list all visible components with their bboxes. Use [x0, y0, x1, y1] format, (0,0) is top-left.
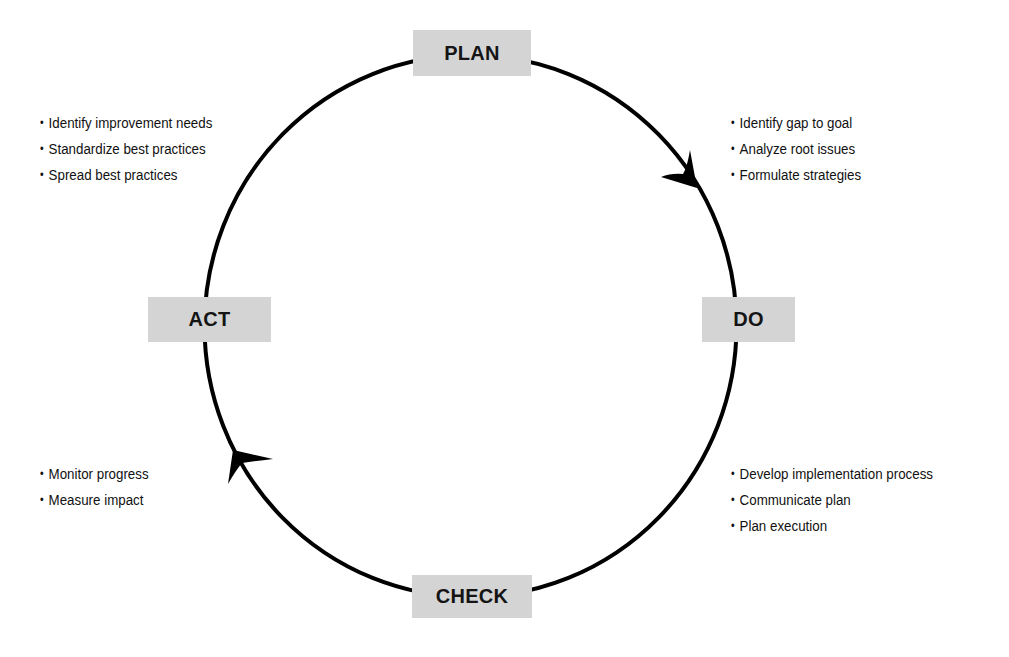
note-item: Plan execution: [731, 513, 933, 539]
act-notes: Identify improvement needs Standardize b…: [40, 110, 212, 188]
stage-do-label: DO: [733, 308, 764, 331]
stage-plan: PLAN: [413, 30, 531, 76]
note-item: Measure impact: [40, 487, 149, 513]
stage-do: DO: [702, 297, 795, 342]
note-item: Communicate plan: [731, 487, 933, 513]
stage-check-label: CHECK: [436, 585, 509, 608]
note-item: Spread best practices: [40, 162, 212, 188]
note-item: Standardize best practices: [40, 136, 212, 162]
do-notes: Develop implementation process Communica…: [731, 461, 933, 539]
note-item: Formulate strategies: [731, 162, 861, 188]
stage-check: CHECK: [412, 575, 532, 618]
cycle-ring: [205, 55, 737, 597]
plan-notes: Identify gap to goal Analyze root issues…: [731, 110, 861, 188]
note-item: Identify gap to goal: [731, 110, 861, 136]
stage-plan-label: PLAN: [444, 42, 500, 65]
note-item: Develop implementation process: [731, 461, 933, 487]
note-item: Identify improvement needs: [40, 110, 212, 136]
check-notes: Monitor progress Measure impact: [40, 461, 149, 513]
stage-act-label: ACT: [188, 308, 230, 331]
stage-act: ACT: [148, 297, 271, 342]
note-item: Analyze root issues: [731, 136, 861, 162]
note-item: Monitor progress: [40, 461, 149, 487]
